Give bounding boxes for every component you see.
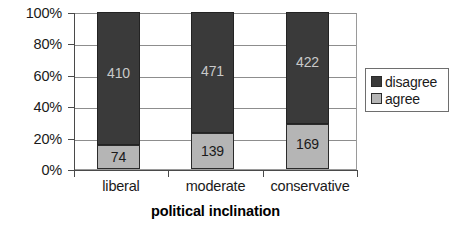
y-tick-mark-20 [68,139,74,140]
bar-segment-agree-moderate[interactable]: 139 [191,133,234,169]
x-axis-line [74,170,358,171]
y-axis-labels: 100% 80% 60% 40% 20% 0% [6,13,62,170]
bar-segment-disagree-moderate[interactable]: 471 [191,12,234,133]
bar-value-agree-liberal: 74 [111,150,126,164]
y-tick-label-60: 60% [6,68,62,84]
legend-item-agree[interactable]: agree [371,90,444,107]
legend-swatch-agree-icon [371,93,382,104]
y-tick-mark-80 [68,44,74,45]
x-category-label-liberal: liberal [74,178,168,194]
plot-area: 410 74 471 139 422 169 [74,13,357,170]
y-tick-label-40: 40% [6,99,62,115]
x-axis-title: political inclination [74,203,357,219]
y-tick-mark-40 [68,107,74,108]
y-axis-line [74,13,75,171]
bar-value-disagree-moderate: 471 [201,64,224,78]
bar-segment-disagree-liberal[interactable]: 410 [97,12,140,145]
chart-legend: disagree agree [365,68,449,112]
stacked-bar-chart: 100% 80% 60% 40% 20% 0% 410 74 471 139 [0,0,467,234]
bar-segment-disagree-conservative[interactable]: 422 [286,12,329,124]
bar-value-disagree-conservative: 422 [296,55,319,69]
bar-segment-agree-conservative[interactable]: 169 [286,124,329,169]
bar-segment-agree-liberal[interactable]: 74 [97,145,140,169]
x-category-label-conservative: conservative [263,178,357,194]
bar-value-agree-moderate: 139 [201,144,224,158]
bar-stack-conservative[interactable]: 422 169 [286,12,329,169]
bar-stack-moderate[interactable]: 471 139 [191,12,234,169]
y-tick-label-80: 80% [6,36,62,52]
x-category-label-moderate: moderate [168,178,263,194]
legend-item-disagree[interactable]: disagree [371,73,444,90]
legend-label-disagree: disagree [385,74,437,90]
bar-stack-liberal[interactable]: 410 74 [97,12,140,169]
legend-label-agree: agree [385,91,420,107]
y-tick-label-0: 0% [6,162,62,178]
x-tick-mark-2 [263,171,264,177]
x-tick-mark-start [74,171,75,177]
legend-swatch-disagree-icon [371,76,382,87]
y-tick-label-20: 20% [6,131,62,147]
x-tick-mark-end [357,171,358,177]
bar-value-agree-conservative: 169 [296,137,319,151]
bar-value-disagree-liberal: 410 [107,66,130,80]
x-tick-mark-1 [168,171,169,177]
y-tick-label-100: 100% [6,5,62,21]
y-tick-mark-60 [68,76,74,77]
y-tick-mark-100 [68,13,74,14]
